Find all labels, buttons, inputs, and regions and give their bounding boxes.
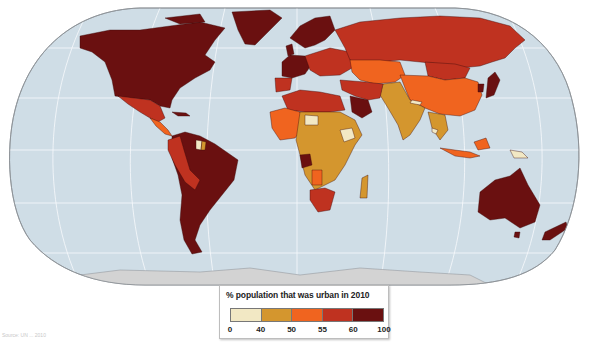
legend-ticks: 0 40 50 55 60 100 <box>230 325 384 335</box>
map-legend: % population that was urban in 2010 0 40… <box>219 285 389 339</box>
legend-tick: 55 <box>318 325 327 334</box>
legend-color-scale <box>230 308 384 322</box>
legend-tick: 50 <box>287 325 296 334</box>
legend-swatch-55-60 <box>323 309 354 321</box>
legend-tick: 100 <box>377 325 390 334</box>
source-note: Source: UN ... 2010 <box>2 332 46 338</box>
legend-swatch-40-50 <box>262 309 293 321</box>
legend-swatch-0-40 <box>231 309 262 321</box>
legend-swatch-50-55 <box>292 309 323 321</box>
legend-title: % population that was urban in 2010 <box>226 290 369 300</box>
legend-swatch-60-100 <box>353 309 383 321</box>
legend-tick: 0 <box>228 325 232 334</box>
legend-tick: 40 <box>256 325 265 334</box>
legend-tick: 60 <box>349 325 358 334</box>
